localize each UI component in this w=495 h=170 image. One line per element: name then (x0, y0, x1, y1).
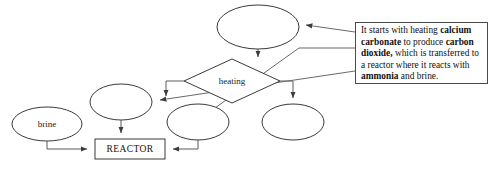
connector-heating-to-left-ellipse (166, 81, 184, 96)
node-left-mid-ellipse[interactable] (90, 84, 152, 120)
node-right-low-ellipse[interactable] (262, 104, 324, 140)
diagram-canvas: heating brine REACTOR It starts with hea… (0, 0, 495, 170)
connector-brine-to-reactor (47, 141, 87, 149)
connector-heating-to-right-ellipse (280, 81, 293, 98)
annotation-note-text: It starts with heating calcium carbonate… (361, 25, 483, 83)
node-reactor-label: REACTOR (107, 144, 154, 154)
connector-center-ellipse-to-reactor (173, 140, 198, 149)
annotation-note-box[interactable]: It starts with heating calcium carbonate… (355, 22, 488, 84)
node-group: heating brine REACTOR (12, 5, 324, 159)
node-heating-label: heating (219, 76, 246, 86)
node-top-ellipse[interactable] (217, 5, 299, 49)
node-center-low-ellipse[interactable] (167, 104, 229, 140)
callout-to-top-ellipse (306, 25, 355, 32)
node-brine-label: brine (38, 119, 57, 129)
